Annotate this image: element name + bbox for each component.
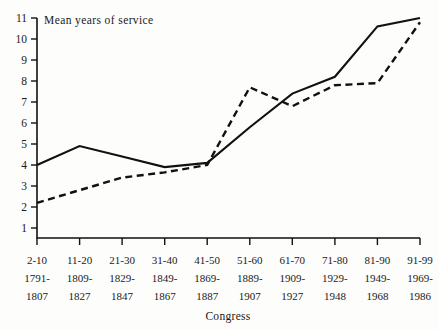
x-tick-sublabel: 1907 [239, 290, 262, 302]
y-tick-label: 4 [21, 159, 27, 171]
x-axis-caption: Congress [205, 310, 250, 323]
x-tick-labels-year-end: 1807 1827 1847 1867 1887 1907 1927 1948 … [26, 290, 432, 302]
series-line-dashed [37, 22, 420, 203]
x-tick-sublabel: 1909- [279, 272, 305, 284]
x-tick-label: 51-60 [237, 254, 263, 266]
y-tick-marks [31, 18, 37, 228]
x-tick-labels-congress: 2-10 11-20 21-30 31-40 41-50 51-60 61-70… [27, 254, 433, 266]
y-axis-caption: Mean years of service [44, 14, 154, 27]
x-tick-sublabel: 1969- [407, 272, 433, 284]
y-tick-label: 5 [21, 138, 27, 150]
y-tick-label: 1 [21, 222, 27, 234]
y-tick-label: 6 [21, 117, 27, 129]
axis-lines [37, 18, 420, 238]
x-tick-label: 21-30 [109, 254, 135, 266]
x-tick-sublabel: 1791- [24, 272, 50, 284]
x-tick-sublabel: 1869- [194, 272, 220, 284]
x-tick-sublabel: 1847 [111, 290, 134, 302]
x-tick-sublabel: 1968 [366, 290, 389, 302]
x-tick-label: 31-40 [152, 254, 178, 266]
y-tick-labels: 11 10 9 8 7 6 5 4 3 2 1 [16, 12, 28, 234]
x-tick-label: 71-80 [322, 254, 348, 266]
x-tick-sublabel: 1829- [109, 272, 135, 284]
x-tick-sublabel: 1809- [67, 272, 93, 284]
x-tick-sublabel: 1807 [26, 290, 49, 302]
x-tick-label: 81-90 [365, 254, 391, 266]
y-tick-label: 9 [21, 54, 27, 66]
x-tick-label: 11-20 [67, 254, 93, 266]
chart-page: Mean years of service 11 10 9 8 7 6 5 [0, 0, 439, 330]
x-tick-label: 41-50 [194, 254, 220, 266]
x-tick-sublabel: 1949- [365, 272, 391, 284]
x-tick-sublabel: 1948 [324, 290, 347, 302]
y-tick-label: 8 [21, 75, 27, 87]
x-tick-label: 91-99 [407, 254, 433, 266]
x-tick-sublabel: 1986 [409, 290, 432, 302]
x-tick-sublabel: 1827 [69, 290, 92, 302]
y-tick-label: 10 [16, 33, 28, 45]
x-tick-label: 2-10 [27, 254, 48, 266]
x-tick-labels-year-start: 1791- 1809- 1829- 1849- 1869- 1889- 1909… [24, 272, 433, 284]
x-tick-sublabel: 1929- [322, 272, 348, 284]
y-tick-label: 3 [21, 180, 27, 192]
y-tick-label: 2 [21, 201, 27, 213]
x-tick-label: 61-70 [279, 254, 305, 266]
y-tick-label: 11 [16, 12, 27, 24]
y-tick-label: 7 [21, 96, 27, 108]
x-tick-sublabel: 1849- [152, 272, 178, 284]
x-tick-sublabel: 1887 [196, 290, 219, 302]
x-tick-marks [37, 238, 420, 245]
line-chart: Mean years of service 11 10 9 8 7 6 5 [0, 0, 439, 330]
series-line-solid [37, 18, 420, 167]
x-tick-sublabel: 1889- [237, 272, 263, 284]
x-tick-sublabel: 1927 [281, 290, 304, 302]
x-tick-sublabel: 1867 [154, 290, 177, 302]
